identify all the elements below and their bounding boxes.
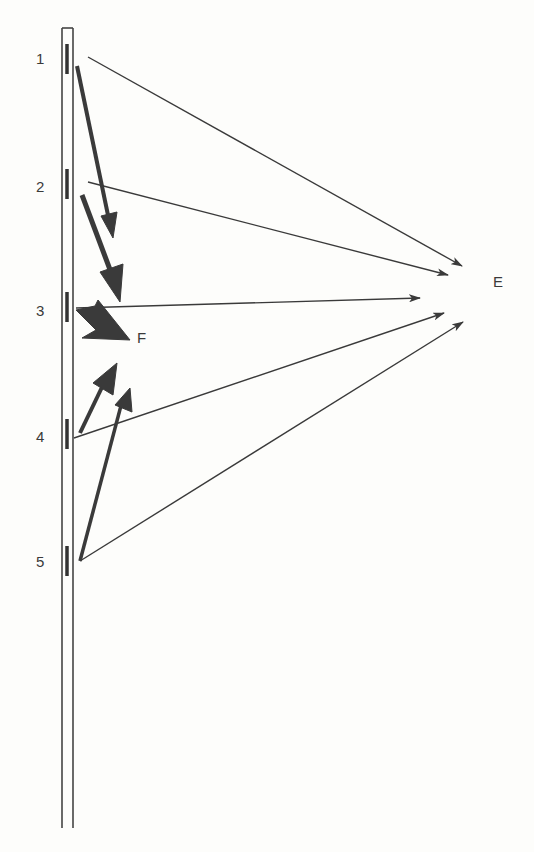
element-label-1: 1 <box>36 50 44 67</box>
near-point-label: F <box>137 329 146 346</box>
rays-to-E <box>74 57 463 561</box>
rays-to-F <box>76 66 132 561</box>
array-diagram <box>0 0 534 852</box>
element-label-4: 4 <box>36 428 44 445</box>
element-label-5: 5 <box>36 553 44 570</box>
far-point-label: E <box>493 273 503 290</box>
element-label-3: 3 <box>36 302 44 319</box>
element-label-2: 2 <box>36 178 44 195</box>
